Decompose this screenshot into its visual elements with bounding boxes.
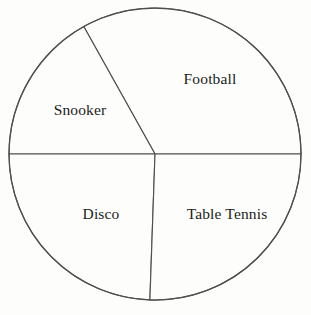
pie-slice-table-tennis[interactable] bbox=[150, 154, 301, 300]
slice-label-snooker: Snooker bbox=[54, 102, 107, 118]
slice-label-disco: Disco bbox=[83, 206, 120, 222]
slice-label-table-tennis: Table Tennis bbox=[187, 206, 268, 222]
pie-chart-figure: Football Snooker Disco Table Tennis bbox=[0, 0, 311, 315]
pie-slice-disco[interactable] bbox=[9, 154, 155, 300]
pie-chart-svg bbox=[0, 0, 311, 315]
slice-label-football: Football bbox=[184, 71, 237, 87]
pie-slice-group bbox=[9, 8, 301, 300]
